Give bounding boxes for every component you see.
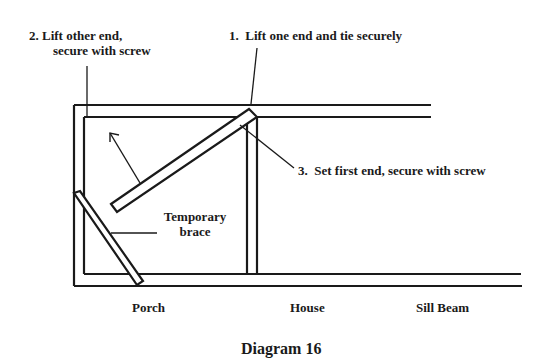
- house-label: House: [290, 300, 325, 315]
- diagonal-board: [111, 109, 257, 212]
- leader-line-step-1: [251, 48, 257, 104]
- brace-label-line2: brace: [157, 224, 233, 239]
- step-2-line2: secure with screw: [29, 43, 151, 58]
- step-3-label: 3. Set first end, secure with screw: [298, 163, 486, 178]
- middle-post: [247, 117, 257, 274]
- diagram-16: 2. Lift other end, secure with screw 1. …: [0, 0, 551, 361]
- porch-label: Porch: [132, 300, 165, 315]
- step-2-line1: 2. Lift other end,: [29, 28, 151, 43]
- leader-line-step-3: [240, 125, 294, 168]
- diagram-caption: Diagram 16: [241, 340, 321, 358]
- step-2-label: 2. Lift other end, secure with screw: [29, 28, 151, 58]
- lift-direction-arrow-icon: [110, 133, 140, 183]
- brace-label-line1: Temporary: [157, 209, 233, 224]
- step-1-label: 1. Lift one end and tie securely: [229, 28, 402, 43]
- sill-beam-label: Sill Beam: [416, 300, 469, 315]
- temporary-brace-label: Temporary brace: [157, 209, 233, 239]
